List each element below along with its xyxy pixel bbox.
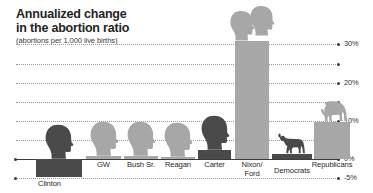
axis-left-dot: [14, 177, 17, 180]
gridline-25: [16, 64, 340, 65]
bar-republicans[interactable]: [314, 122, 350, 159]
axis-tick-dot: [337, 63, 340, 66]
axis-tick-dot: [337, 43, 340, 46]
axis-tick-label: 30%: [344, 39, 359, 48]
category-label-republicans: Republicans: [302, 161, 362, 170]
category-label-clinton: Clinton: [38, 180, 108, 189]
gridline-15: [16, 102, 340, 103]
gridline-neg5pct: [16, 178, 340, 179]
gridline-20pct: [16, 83, 340, 84]
axis-tick-label: 20%: [344, 78, 359, 87]
abortion-ratio-chart: Annualized change in the abortion ratio …: [0, 0, 373, 193]
axis-left-dot: [14, 158, 17, 161]
head-silhouette-icon-bushsr: [126, 121, 156, 160]
head-silhouette-icon-carter: [200, 115, 230, 154]
plot-area: 30%20%10%0%-5% ClintonGWBush Sr.ReaganCa…: [0, 0, 373, 193]
axis-tick-dot: [337, 82, 340, 85]
gridline-30pct: [16, 44, 340, 45]
bar-nixonford[interactable]: [235, 41, 269, 159]
axis-tick-label: -5%: [344, 173, 357, 182]
axis-tick-dot: [337, 177, 340, 180]
head-silhouette-icon-reagan: [163, 122, 193, 161]
head-silhouette-icon-gw: [89, 121, 119, 160]
head-silhouette-icon-clinton: [44, 124, 74, 163]
elephant-icon: [315, 101, 349, 126]
donkey-icon: [275, 132, 309, 158]
